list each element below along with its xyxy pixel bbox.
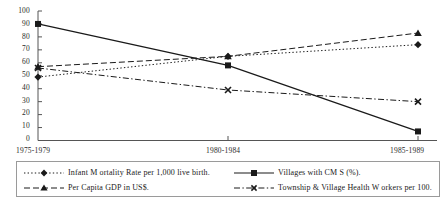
series-2 — [35, 21, 421, 134]
legend-item-infant-mortality-rate[interactable]: Infant M ortality Rate per 1,000 live bi… — [23, 166, 210, 180]
legend-label-per-capita-gdp: Per Capita GDP in US$. — [68, 183, 149, 193]
series-layer — [34, 21, 422, 134]
legend-item-township-village-health-workers[interactable]: Township & Village Health W orkers per 1… — [233, 181, 432, 195]
chart-legend: Infant M ortality Rate per 1,000 live bi… — [16, 161, 440, 197]
x-axis-ticks — [228, 136, 418, 141]
legend-item-per-capita-gdp[interactable]: Per Capita GDP in US$. — [23, 181, 149, 195]
chart-figure: 100 90 80 70 60 50 40 30 20 10 0 1975-19… — [0, 0, 445, 207]
legend-swatch-per-capita-gdp — [23, 182, 65, 194]
series-2-point-2 — [415, 128, 421, 134]
chart-plot-svg — [0, 0, 445, 158]
legend-label-township-village-health-workers: Township & Village Health W orkers per 1… — [278, 183, 432, 193]
series-1-point-2 — [414, 29, 422, 36]
series-3-point-1 — [225, 87, 231, 93]
plot-area: 100 90 80 70 60 50 40 30 20 10 0 1975-19… — [0, 0, 445, 158]
series-line-3 — [38, 68, 418, 102]
legend-swatch-township-village-health-workers — [233, 182, 275, 194]
legend-label-infant-mortality-rate: Infant M ortality Rate per 1,000 live bi… — [68, 168, 210, 178]
series-0 — [34, 41, 421, 81]
legend-label-villages-with-cms: Villages with CM S (%). — [278, 168, 361, 178]
series-0-point-2 — [414, 41, 421, 48]
series-2-point-1 — [225, 62, 231, 68]
legend-item-villages-with-cms[interactable]: Villages with CM S (%). — [233, 166, 361, 180]
series-2-point-0 — [35, 21, 41, 27]
legend-swatch-villages-with-cms — [233, 167, 275, 179]
series-line-1 — [38, 33, 418, 67]
series-0-point-0 — [34, 73, 41, 80]
legend-swatch-infant-mortality-rate — [23, 167, 65, 179]
series-line-0 — [38, 45, 418, 77]
